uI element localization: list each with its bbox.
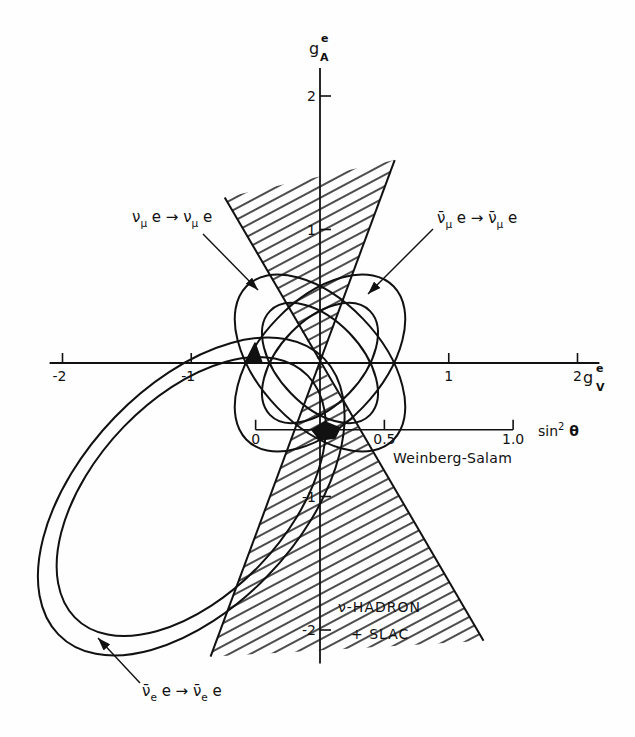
y-axis-title-sup: e <box>321 32 328 45</box>
y-tick-label: 1 <box>307 222 316 238</box>
weinberg-salam-label: Weinberg-Salam <box>393 450 512 466</box>
numu-e-label: νμ e → νμ e <box>132 208 212 229</box>
sin2theta-tick-label: 0.5 <box>373 431 395 447</box>
secondary-axis-title: sin2 θ <box>538 421 579 439</box>
hadron-label-line2: + SLAC <box>351 626 409 642</box>
x-axis-title-sub: V <box>596 381 605 394</box>
arrow-icon <box>203 234 258 290</box>
figure-root: -2-11221-1-200.51.0 g e A g e V sin2 θ W… <box>0 0 635 737</box>
numubar-e-label: ν̄μ e → ν̄μ e <box>437 209 517 230</box>
hadron-slac-hatched-region <box>211 160 484 657</box>
nuebar-e-label: ν̄e e → ν̄e e <box>142 682 222 703</box>
x-tick-label: 1 <box>444 368 453 384</box>
y-tick-label: -1 <box>302 489 316 505</box>
solution-near-gV-minus-0.5 <box>245 343 262 363</box>
x-tick-label: 2 <box>573 368 582 384</box>
coupling-constraint-plot: -2-11221-1-200.51.0 g e A g e V sin2 θ W… <box>0 0 635 737</box>
y-tick-label: -2 <box>302 622 316 638</box>
sin2theta-tick-label: 1.0 <box>502 431 524 447</box>
y-axis-title: g e A <box>309 32 329 64</box>
secondary-axis-title-text: sin2 θ <box>538 421 579 439</box>
sin2theta-tick-label: 0 <box>251 431 260 447</box>
y-axis-title-base: g <box>309 39 319 58</box>
y-tick-label: 2 <box>307 88 316 104</box>
hadron-label-line1: ν-HADRON <box>338 599 421 615</box>
arrow-icon <box>98 638 140 683</box>
annotation-numubar-e: ν̄μ e → ν̄μ e <box>368 209 517 294</box>
x-tick-label: -2 <box>53 368 67 384</box>
y-axis-title-sub: A <box>320 51 329 64</box>
x-axis-title-base: g <box>583 368 593 387</box>
upper-hatched-wedge <box>225 160 395 363</box>
x-axis-title: g e V <box>583 362 605 394</box>
x-tick-label: -1 <box>181 368 195 384</box>
arrow-icon <box>368 229 433 294</box>
x-axis-title-sup: e <box>596 362 603 375</box>
